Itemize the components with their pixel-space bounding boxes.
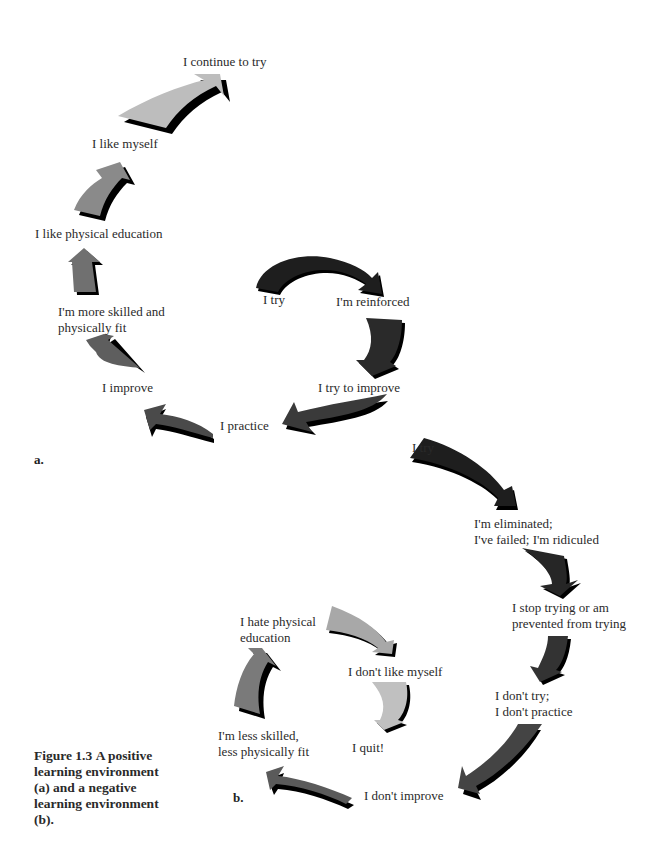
label-b-dont-try: I don't try; I don't practice [495,688,572,720]
arrow-b-hatePE-to-dontlikeself [326,606,397,657]
arrow-a-improve-to-practice [282,394,388,435]
label-a-try: I try [263,292,285,308]
label-b-quit: I quit! [352,740,384,756]
arrow-b-dontimprove-to-lessskilled [266,766,354,809]
label-a-try-improve: I try to improve [318,380,400,396]
label-a-like-pe: I like physical education [35,226,162,242]
label-b-eliminated: I'm eliminated; I've failed; I'm ridicul… [474,516,599,548]
arrow-a-likeself-to-continue [118,74,230,134]
arrow-a-practice-to-improve [144,404,214,443]
label-a-more-skilled-line1: I'm more skilled and [58,304,165,320]
arrow-layer [0,0,649,850]
arrow-a-likePE-to-likeself [74,162,135,221]
label-b-stop-trying: I stop trying or am prevented from tryin… [512,600,626,632]
label-b-stop-trying-line2: prevented from trying [512,616,626,632]
label-a-more-skilled-line2: physically fit [58,320,165,336]
label-b-dont-try-line1: I don't try; [495,688,572,704]
label-b-hate-pe: I hate physical education [240,614,316,646]
label-a-improve: I improve [102,380,153,396]
figure-caption-label: Figure 1.3 [34,748,92,763]
label-b-hate-pe-line1: I hate physical [240,614,316,630]
panel-a-letter: a. [34,452,44,468]
panel-b-letter: b. [233,790,243,806]
label-b-less-skilled-line2: less physically fit [218,744,309,760]
label-a-continue: I continue to try [183,54,266,70]
label-b-eliminated-line1: I'm eliminated; [474,516,599,532]
label-a-practice: I practice [220,418,269,434]
label-b-hate-pe-line2: education [240,630,316,646]
label-b-less-skilled-line1: I'm less skilled, [218,728,309,744]
label-b-stop-trying-line1: I stop trying or am [512,600,626,616]
label-b-less-skilled: I'm less skilled, less physically fit [218,728,309,760]
arrow-a-skilled-to-likePE [68,248,103,295]
label-b-dont-try-line2: I don't practice [495,704,572,720]
label-b-eliminated-line2: I've failed; I'm ridiculed [474,532,599,548]
arrow-a-try-to-reinforced [256,256,384,297]
label-a-more-skilled: I'm more skilled and physically fit [58,304,165,336]
arrow-b-dontlikeself-to-quit [372,682,410,733]
label-b-dont-improve: I don't improve [364,788,444,804]
arrow-b-lessskilled-to-hatePE [234,648,281,719]
label-b-dont-like-myself: I don't like myself [348,664,442,680]
arrow-b-stop-to-donttry [530,636,571,685]
arrow-b-eliminated-to-stop [522,548,581,599]
arrow-b-donttry-to-dontimprove [458,724,545,800]
arrow-a-improve-to-skilled [86,334,145,373]
figure-caption: Figure 1.3 A positive learning environme… [34,748,174,828]
label-a-like-myself: I like myself [92,136,158,152]
label-a-reinforced: I'm reinforced [336,294,409,310]
label-b-try: I try [412,440,434,456]
arrow-a-reinforced-to-improve [356,318,405,379]
